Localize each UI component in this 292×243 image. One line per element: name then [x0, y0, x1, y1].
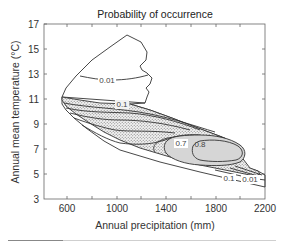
contour-label: 0.01 — [99, 76, 115, 85]
contour-label: 0.1 — [116, 100, 128, 109]
bottom-rule-accent — [8, 240, 63, 241]
y-tick-label: 13 — [28, 69, 40, 80]
y-tick-label: 3 — [33, 194, 39, 205]
y-tick-label: 17 — [28, 19, 40, 30]
x-tick-label: 1400 — [155, 203, 178, 214]
y-tick-label: 5 — [33, 169, 39, 180]
x-tick-label: 2200 — [254, 203, 277, 214]
y-tick-label: 15 — [28, 44, 40, 55]
y-tick-label: 7 — [33, 144, 39, 155]
chart-title: Probability of occurrence — [97, 8, 213, 20]
x-tick-label: 1800 — [205, 203, 228, 214]
x-tick-label: 1000 — [106, 203, 129, 214]
contour-label: 0.01 — [242, 175, 258, 184]
contour-label: 0.8 — [194, 140, 206, 149]
x-tick-label: 600 — [59, 203, 76, 214]
y-tick-label: 9 — [33, 119, 39, 130]
y-tick-label: 11 — [29, 94, 40, 105]
contour-0.01-left-edge — [62, 35, 127, 97]
contour-label: 0.1 — [223, 174, 235, 183]
contour-label: 0.7 — [175, 139, 187, 148]
x-axis-label: Annual precipitation (mm) — [95, 219, 215, 231]
y-axis-label: Annual mean temperature (°C) — [9, 40, 21, 183]
contour-chart: Probability of occurrence 17 15 13 11 9 … — [0, 0, 292, 243]
